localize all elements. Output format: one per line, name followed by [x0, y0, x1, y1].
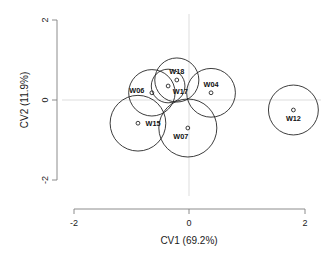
y-axis: 2 0 -2 CV2 (11.9%) [19, 17, 57, 184]
point-label: W17 [173, 87, 188, 96]
data-points-layer: W06W18W17W04W15W07W12 [110, 58, 318, 157]
reference-lines [62, 14, 321, 196]
data-point-group: W12 [268, 85, 318, 135]
y-tick-label-0: 0 [40, 97, 50, 102]
point-label: W12 [286, 114, 301, 123]
x-tick-label-neg2: -2 [70, 218, 78, 228]
x-tick-label-0: 0 [186, 218, 191, 228]
point-label: W15 [146, 119, 161, 128]
x-tick-label-2: 2 [302, 218, 307, 228]
point-label: W06 [129, 86, 144, 95]
data-point-group: W15 [110, 95, 166, 151]
confidence-circle [159, 99, 217, 157]
point-label: W04 [204, 80, 220, 89]
point-label: W07 [173, 132, 188, 141]
scatter-plot-figure: 2 0 -2 CV2 (11.9%) -2 0 2 CV1 (69.2%) W0… [0, 0, 327, 258]
x-axis: -2 0 2 CV1 (69.2%) [70, 209, 308, 246]
plot-canvas: 2 0 -2 CV2 (11.9%) -2 0 2 CV1 (69.2%) W0… [0, 0, 327, 258]
point-marker [175, 78, 179, 82]
point-marker [209, 91, 213, 95]
y-tick-label-neg2: -2 [40, 176, 50, 184]
data-point-group: W04 [187, 68, 236, 117]
data-point-group: W07 [159, 99, 217, 157]
y-axis-title: CV2 (11.9%) [19, 72, 30, 129]
x-axis-title: CV1 (69.2%) [160, 235, 217, 246]
confidence-circle [268, 85, 318, 135]
confidence-circle [187, 68, 236, 117]
y-tick-label-2: 2 [40, 17, 50, 22]
point-marker [166, 84, 170, 88]
data-point-group: W06 [129, 70, 175, 116]
point-marker [292, 108, 296, 112]
point-marker [136, 121, 140, 125]
